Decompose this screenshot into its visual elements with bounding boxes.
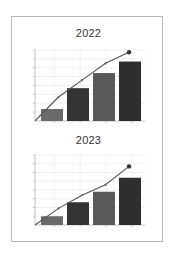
trend-line-marker <box>57 96 59 98</box>
bar <box>41 216 63 225</box>
trend-line-end-marker <box>127 164 131 168</box>
chart-plots <box>0 0 177 257</box>
bar <box>119 178 141 225</box>
trend-line-marker <box>104 184 106 186</box>
trend-line-marker <box>81 79 83 81</box>
trend-line-end-marker <box>127 50 131 54</box>
trend-line-marker <box>104 62 106 64</box>
bar <box>93 73 115 121</box>
trend-line-marker <box>81 194 83 196</box>
bar <box>67 202 89 225</box>
bar <box>93 192 115 225</box>
bar <box>67 88 89 121</box>
trend-line-marker <box>57 207 59 209</box>
bar <box>119 62 141 121</box>
